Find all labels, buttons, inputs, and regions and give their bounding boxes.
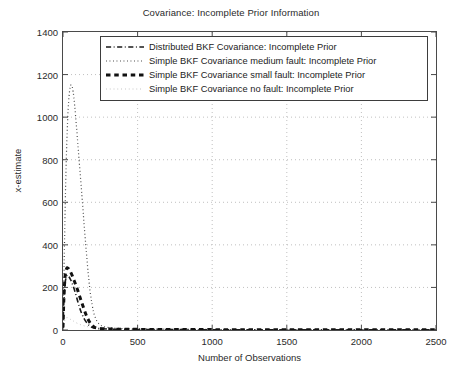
x-tick-label: 2500 xyxy=(406,336,462,347)
x-tick-label: 2000 xyxy=(331,336,391,347)
x-tick-label: 1500 xyxy=(257,336,317,347)
legend-item[interactable]: Distributed BKF Covariance: Incomplete P… xyxy=(105,40,423,54)
legend-item[interactable]: Simple BKF Covariance no fault: Incomple… xyxy=(105,82,423,96)
chart-legend: Distributed BKF Covariance: Incomplete P… xyxy=(100,36,428,101)
x-tick-label: 1000 xyxy=(182,336,242,347)
legend-item[interactable]: Simple BKF Covariance medium fault: Inco… xyxy=(105,54,423,68)
y-tick-label: 1200 xyxy=(18,69,58,80)
x-tick-label: 0 xyxy=(33,336,93,347)
x-axis-ticks: 05001000150020002500 xyxy=(62,336,437,352)
y-tick-label: 600 xyxy=(18,197,58,208)
chart-figure: Covariance: Incomplete Prior Information… xyxy=(0,0,462,374)
y-tick-label: 1000 xyxy=(18,112,58,123)
data-series-group xyxy=(63,85,436,330)
y-tick-label: 1400 xyxy=(18,27,58,38)
legend-label: Simple BKF Covariance medium fault: Inco… xyxy=(149,55,376,67)
legend-label: Distributed BKF Covariance: Incomplete P… xyxy=(149,41,337,53)
data-series-line xyxy=(63,268,436,330)
legend-label: Simple BKF Covariance no fault: Incomple… xyxy=(149,83,354,95)
legend-line-sample-icon xyxy=(105,69,145,81)
y-tick-label: 200 xyxy=(18,282,58,293)
legend-item[interactable]: Simple BKF Covariance small fault: Incom… xyxy=(105,68,423,82)
legend-line-sample-icon xyxy=(105,55,145,67)
chart-title: Covariance: Incomplete Prior Information xyxy=(0,7,462,18)
data-series-line xyxy=(63,275,436,330)
y-tick-label: 400 xyxy=(18,239,58,250)
y-tick-label: 0 xyxy=(18,325,58,336)
data-series-line xyxy=(63,85,436,330)
y-tick-label: 800 xyxy=(18,154,58,165)
y-axis-ticks: 0200400600800100012001400 xyxy=(14,31,58,331)
x-axis-label: Number of Observations xyxy=(62,352,437,363)
legend-label: Simple BKF Covariance small fault: Incom… xyxy=(149,69,365,81)
x-tick-label: 500 xyxy=(108,336,168,347)
legend-line-sample-icon xyxy=(105,83,145,95)
legend-line-sample-icon xyxy=(105,41,145,53)
